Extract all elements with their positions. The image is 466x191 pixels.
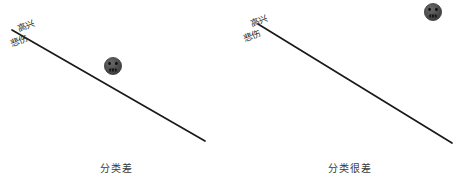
figure-container: 高兴 悲伤 分类差 高兴 bbox=[0, 0, 466, 191]
sad-face-icon bbox=[424, 3, 441, 20]
decision-boundary-line bbox=[12, 30, 205, 141]
panel-poor-classification: 高兴 悲伤 分类差 bbox=[0, 0, 233, 191]
sad-face-icon bbox=[104, 57, 121, 74]
panel-very-poor-classification: 高兴 悲伤 分类很差 bbox=[233, 0, 466, 191]
decision-boundary-line bbox=[258, 24, 452, 143]
caption-poor-classification: 分类差 bbox=[0, 164, 233, 174]
caption-very-poor-classification: 分类很差 bbox=[233, 164, 466, 174]
